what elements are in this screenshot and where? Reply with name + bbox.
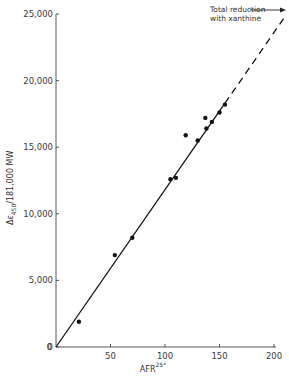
x-tick-label: 0	[47, 342, 52, 352]
data-point	[113, 253, 117, 257]
y-axis-title: Δε450/181,000 MW	[6, 151, 17, 225]
data-point	[196, 138, 200, 142]
data-point	[168, 177, 172, 181]
data-point	[204, 126, 208, 130]
y-tick-label: 20,000	[23, 76, 53, 86]
x-tick-label: 100	[157, 351, 173, 361]
x-axis-ticks: 050100150200	[47, 342, 283, 361]
data-point	[130, 236, 134, 240]
data-point	[77, 319, 81, 323]
data-point	[174, 176, 178, 180]
extrapolation-dashed-line	[225, 17, 285, 104]
data-point	[184, 133, 188, 137]
annotation-line2: with xanthine	[210, 14, 262, 23]
y-tick-label: 25,000	[23, 9, 53, 19]
data-point	[210, 120, 214, 124]
x-tick-label: 150	[211, 351, 227, 361]
data-point	[217, 110, 221, 114]
y-axis-ticks: 05,00010,00015,00020,00025,000	[23, 9, 59, 352]
y-tick-label: 5,000	[29, 275, 53, 285]
data-points	[77, 102, 227, 324]
y-tick-label: 10,000	[23, 209, 53, 219]
data-point	[223, 102, 227, 106]
chart-figure: 05,00010,00015,00020,00025,000 050100150…	[0, 0, 289, 377]
x-tick-label: 200	[266, 351, 282, 361]
annotation-line1: Total reduction	[209, 5, 266, 14]
y-tick-label: 15,000	[23, 142, 53, 152]
arrowhead-icon	[280, 8, 286, 13]
data-point	[203, 116, 207, 120]
x-tick-label: 50	[105, 351, 116, 361]
x-axis-title: AFR25*	[140, 361, 166, 374]
